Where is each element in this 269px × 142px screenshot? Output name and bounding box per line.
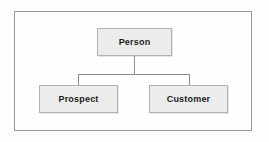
connector-drop-customer — [189, 74, 190, 85]
diagram-canvas: Person Prospect Customer — [0, 0, 269, 142]
node-prospect[interactable]: Prospect — [39, 85, 118, 113]
node-person-label: Person — [119, 38, 151, 47]
node-prospect-label: Prospect — [58, 95, 98, 104]
connector-horizontal-bar — [78, 74, 190, 75]
connector-drop-prospect — [78, 74, 79, 85]
connector-person-trunk — [134, 56, 135, 74]
node-customer-label: Customer — [167, 95, 211, 104]
node-customer[interactable]: Customer — [149, 85, 228, 113]
node-person[interactable]: Person — [97, 28, 172, 56]
